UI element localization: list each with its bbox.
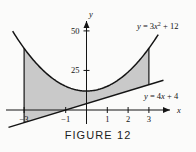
- parabola-label-suffix: + 12: [161, 21, 179, 31]
- figure-caption: FIGURE 12: [0, 129, 196, 141]
- parabola-label-equals: = 3: [141, 21, 154, 31]
- y-axis-label: y: [88, 9, 93, 19]
- x-axis-arrow-icon: [163, 107, 170, 113]
- y-tick-label: 50: [71, 26, 80, 36]
- x-tick-label: −1: [61, 114, 70, 124]
- y-axis-tick-labels: 2550: [71, 26, 80, 76]
- x-tick-label: −3: [20, 114, 29, 124]
- line-label-suffix: + 4: [165, 91, 179, 101]
- y-tick-label: 25: [71, 65, 80, 75]
- x-tick-label: 2: [126, 114, 130, 124]
- figure-container: −3−1123 2550 x y y = 3x2 + 12 y = 4x + 4…: [0, 0, 196, 152]
- y-axis-arrow-icon: [84, 21, 90, 28]
- parabola-equation-label: y = 3x2 + 12: [136, 21, 178, 31]
- line-equation-label: y = 4x + 4: [143, 91, 179, 101]
- line-label-equals: = 4: [148, 91, 162, 101]
- x-axis-label: x: [176, 105, 181, 115]
- x-tick-label: 3: [147, 114, 151, 124]
- x-tick-label: 1: [105, 114, 109, 124]
